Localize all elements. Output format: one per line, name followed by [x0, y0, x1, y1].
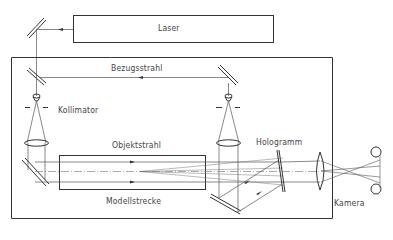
- collimator-left: [25, 77, 49, 180]
- reference-beam-label: Bezugsstrahl: [111, 63, 163, 73]
- arrow-icon: [138, 76, 143, 79]
- arrow-icon: [130, 161, 135, 164]
- camera-reel-bottom: [371, 184, 381, 194]
- test-section-box: [60, 156, 206, 190]
- reference-mirror: [218, 65, 238, 85]
- collimator-right: [216, 83, 241, 212]
- hologram-label: Hologramm: [256, 137, 302, 147]
- camera-label: Kamera: [334, 198, 365, 208]
- mirror-bottom-right: [210, 194, 241, 214]
- test-section-label: Modellstrecke: [106, 196, 161, 206]
- arrow-icon: [58, 28, 63, 31]
- arrow-icon: [256, 191, 262, 195]
- collimator-label: Kollimator: [58, 105, 98, 115]
- camera-reel-top: [371, 147, 381, 157]
- lens-icon: [217, 140, 241, 146]
- hologram-plate: [277, 150, 285, 192]
- arrow-icon: [130, 181, 135, 184]
- laser-label: Laser: [158, 23, 180, 33]
- object-beam-label: Objektstrahl: [112, 140, 161, 150]
